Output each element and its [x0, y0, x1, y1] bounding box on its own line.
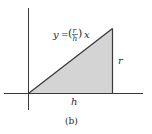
- eq-paren-right: ): [78, 27, 82, 40]
- base-label: h: [71, 96, 77, 107]
- eq-frac-den: h: [73, 34, 78, 43]
- diagram-canvas: y = ( r h ) x r h (b): [0, 0, 152, 134]
- height-label: r: [118, 55, 124, 66]
- eq-lhs: y: [52, 29, 59, 40]
- eq-var: x: [84, 29, 90, 40]
- figure-caption: (b): [65, 116, 78, 126]
- equation-label: y = ( r h ) x: [52, 26, 90, 43]
